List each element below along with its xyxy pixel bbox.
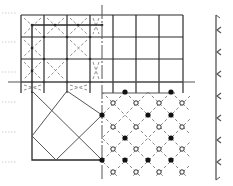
node-dot xyxy=(77,24,80,27)
solid-dot xyxy=(168,89,173,94)
open-dot xyxy=(157,101,161,105)
axis-lines xyxy=(8,5,195,180)
solid-dot xyxy=(122,157,127,162)
cross-line xyxy=(70,40,87,56)
right-bracket xyxy=(216,15,221,180)
lattice-diagonal xyxy=(0,92,25,176)
open-dot xyxy=(157,147,161,151)
solid-dot xyxy=(122,135,127,140)
lattice-diagonal xyxy=(0,92,2,176)
geometric-grid-diagram xyxy=(0,0,233,186)
diamond-line xyxy=(32,91,67,136)
bracket-arrow-icon xyxy=(217,27,221,33)
open-dot xyxy=(111,101,115,105)
solid-dot xyxy=(99,112,104,117)
bracket-arrow-icon xyxy=(217,115,221,121)
open-dot xyxy=(134,125,138,129)
lattice-diagonal xyxy=(133,92,217,176)
lattice-diagonal xyxy=(0,92,33,176)
node-dot xyxy=(66,58,69,61)
lower-diamond-square xyxy=(32,91,102,160)
bracket-arrow-icon xyxy=(217,49,221,55)
node-dot xyxy=(31,24,34,27)
lattice-diagonal xyxy=(0,92,56,176)
lattice-diagonal xyxy=(0,92,71,176)
solid-dot xyxy=(168,157,173,162)
node-dot xyxy=(89,36,92,39)
lattice-diagonal xyxy=(194,92,233,176)
open-dot xyxy=(111,125,115,129)
open-dot xyxy=(180,147,184,151)
node-dot xyxy=(31,70,34,73)
solid-dot xyxy=(168,135,173,140)
dot-lattice xyxy=(0,92,233,176)
open-dot xyxy=(180,101,184,105)
left-tick-marks xyxy=(2,13,16,162)
solid-dot xyxy=(168,112,173,117)
lattice-diagonal xyxy=(0,92,10,176)
lattice-diagonal xyxy=(56,92,140,176)
cell-cross-marks xyxy=(24,18,99,90)
open-dot xyxy=(134,170,138,174)
node-dot xyxy=(89,58,92,61)
node-dot xyxy=(54,24,57,27)
bracket-arrow-icon xyxy=(217,93,221,99)
open-dot xyxy=(180,170,184,174)
open-dot xyxy=(111,170,115,174)
solid-dot xyxy=(145,112,150,117)
diamond-line xyxy=(32,136,56,160)
open-dot xyxy=(111,147,115,151)
solid-dot xyxy=(99,157,104,162)
lattice-diagonal xyxy=(79,92,163,176)
lattice-diagonal xyxy=(156,92,233,176)
lattice-diagonal xyxy=(0,92,48,176)
open-dot xyxy=(134,147,138,151)
node-dot xyxy=(43,58,46,61)
open-dot xyxy=(134,101,138,105)
lattice-diagonal xyxy=(18,92,102,176)
bracket-arrow-icon xyxy=(217,71,221,77)
bracket-arrow-icon xyxy=(217,159,221,165)
open-dot xyxy=(157,170,161,174)
node-dot xyxy=(31,47,34,50)
open-dot xyxy=(157,125,161,129)
lattice-diagonal xyxy=(179,92,233,176)
lattice-diagonal xyxy=(202,92,233,176)
lattice-diagonal xyxy=(10,92,94,176)
node-dot xyxy=(43,36,46,39)
bracket-arrow-icon xyxy=(217,137,221,143)
lattice-diagonal xyxy=(0,92,79,176)
solid-dot xyxy=(122,89,127,94)
open-dot xyxy=(180,125,184,129)
solid-dot xyxy=(145,157,150,162)
diamond-line xyxy=(67,91,102,115)
node-dot xyxy=(66,36,69,39)
